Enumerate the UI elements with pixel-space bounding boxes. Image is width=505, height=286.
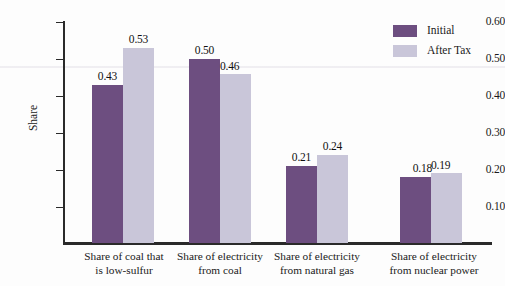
bar-chart-figure: Share 0.60 0.50 0.40 0.30 0.20 0.10 0.43… [0, 0, 505, 286]
category-label-line2: from natural gas [256, 263, 378, 277]
bar-value-g2-initial: 0.50 [181, 45, 228, 57]
legend-swatch-initial [393, 25, 417, 37]
bar-initial-electricity-nuclear [400, 177, 431, 243]
bar-initial-coal-low-sulfur [92, 85, 123, 243]
legend-label-initial: Initial [427, 23, 454, 37]
bar-aftertax-electricity-coal [220, 74, 251, 243]
bar-initial-electricity-natural-gas [286, 166, 317, 243]
bar-value-g2-aftertax: 0.46 [220, 61, 267, 73]
legend-label-after-tax: After Tax [427, 43, 471, 57]
bar-value-g1-aftertax: 0.53 [115, 34, 162, 46]
bar-value-g1-initial: 0.43 [84, 71, 131, 83]
y-axis-title: Share [27, 81, 39, 155]
category-label-electricity-nuclear: Share of electricity from nuclear power [369, 249, 499, 277]
bar-value-g4-initial: 0.18 [392, 163, 432, 175]
bar-initial-electricity-coal [189, 59, 220, 243]
bar-value-g3-initial: 0.21 [278, 152, 325, 164]
bar-aftertax-electricity-nuclear [431, 173, 462, 243]
bar-value-g3-aftertax: 0.24 [309, 141, 356, 153]
category-label-line1: Share of electricity [369, 249, 499, 263]
category-label-line1: Share of electricity [256, 249, 378, 263]
bar-aftertax-electricity-natural-gas [317, 155, 348, 243]
bar-value-g4-aftertax: 0.19 [431, 160, 471, 172]
category-label-electricity-natural-gas: Share of electricity from natural gas [256, 249, 378, 277]
legend-swatch-after-tax [393, 45, 417, 57]
category-label-line2: from nuclear power [369, 263, 499, 277]
